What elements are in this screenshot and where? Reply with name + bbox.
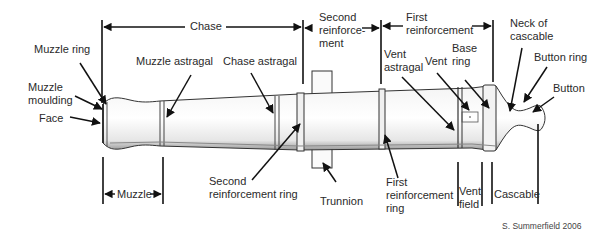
chase-astragal-label: Chase astragal <box>223 55 297 68</box>
vent-field-span-label: Vent field <box>459 185 481 211</box>
muzzle-astragal-label: Muzzle astragal <box>136 55 213 68</box>
second-reinforcement-ring-label: Second reinforcement ring <box>209 175 298 201</box>
muzzle-span-label: Muzzle <box>117 188 152 201</box>
neck-of-cascable-label: Neck of cascable <box>510 17 553 43</box>
base-ring-label: Base ring <box>452 42 477 68</box>
chase-span-label: Chase <box>190 20 222 33</box>
button-ring-label: Button ring <box>534 51 587 64</box>
cascable-span-label: Cascable <box>494 188 540 201</box>
first-reinforcement-ring-label: First reinforcement ring <box>386 176 453 215</box>
vent-astragal-label: Vent astragal <box>384 48 423 74</box>
face-label: Face <box>39 112 63 125</box>
credit-text: S. Summerfield 2006 <box>502 221 581 231</box>
muzzle-ring-label: Muzzle ring <box>34 43 90 56</box>
muzzle-moulding-label: Muzzle moulding <box>28 81 73 107</box>
second-reinforcement-span-label: Second reinforce- ment <box>319 11 365 50</box>
first-reinforcement-span-label: First reinforcement <box>406 11 473 37</box>
trunnion-label: Trunnion <box>320 195 363 208</box>
button-label: Button <box>553 82 585 95</box>
vent-label: Vent <box>425 55 447 68</box>
